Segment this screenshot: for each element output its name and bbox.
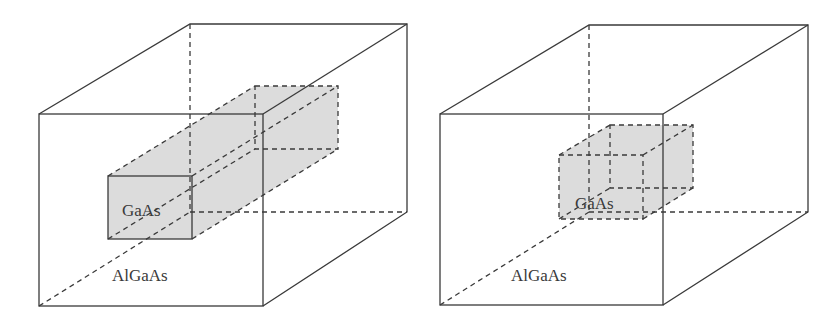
dot-outer-label: AlGaAs: [511, 266, 567, 285]
wire-back-face: [255, 86, 338, 149]
figure-canvas: GaAs AlGaAs GaAs AlGaAs: [0, 0, 840, 318]
quantum-wire-diagram: GaAs AlGaAs: [39, 24, 407, 306]
outer-hidden-depth-edge: [440, 212, 589, 305]
wire-inner-label: GaAs: [122, 201, 161, 220]
dot-inner-label: GaAs: [575, 194, 614, 213]
quantum-dot-diagram: GaAs AlGaAs: [440, 25, 808, 305]
outer-top-right-edge: [663, 25, 808, 114]
wire-outer-label: AlGaAs: [112, 266, 168, 285]
